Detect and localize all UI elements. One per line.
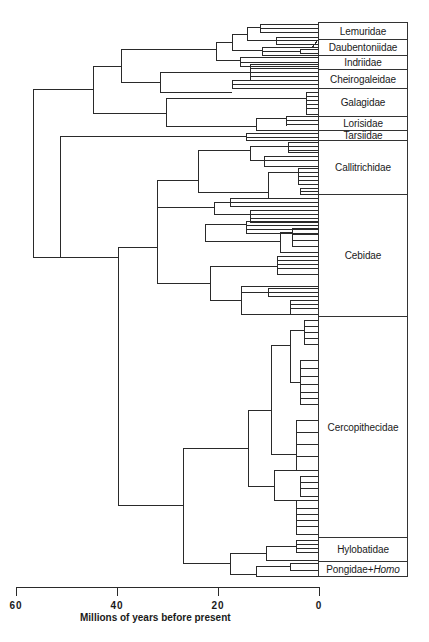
family-label-hylobatidae: Hylobatidae (318, 537, 408, 561)
family-label-lorisidae: Lorisidae (318, 116, 408, 130)
axis-tick-40: 40 (110, 600, 123, 611)
haplorhine-node (60, 136, 246, 257)
axis-title: Millions of years before present (80, 612, 231, 623)
lorisiform-node (166, 98, 306, 126)
axis-tick-60: 60 (9, 600, 22, 611)
time-axis-ticks (16, 587, 319, 596)
hominoid-node (230, 553, 266, 574)
strepsirrhine-node (93, 66, 166, 113)
platyrrhine-node (157, 180, 205, 283)
family-label-pongidae-homo: Pongidae+Homo (318, 561, 408, 577)
root-node (33, 89, 93, 257)
family-label-cercopithecidae: Cercopithecidae (318, 316, 408, 537)
catarrhine-node (183, 448, 248, 563)
axis-tick-20: 20 (211, 600, 224, 611)
family-label-daubentoniidae: Daubentoniidae (318, 39, 408, 55)
lemuriform-node (121, 49, 216, 82)
family-label-lemuridae: Lemuridae (318, 22, 408, 39)
axis-tick-0: 0 (316, 600, 323, 611)
family-label-cheirogaleidae: Cheirogaleidae (318, 69, 408, 88)
family-label-callitrichidae: Callitrichidae (318, 140, 408, 194)
family-label-cebidae: Cebidae (318, 194, 408, 316)
family-label-galagidae: Galagidae (318, 88, 408, 116)
family-label-indriidae: Indriidae (318, 55, 408, 69)
family-label-tarsiidae: Tarsiidae (318, 130, 408, 140)
cercopithecid-node (248, 410, 274, 486)
anthropoid-node (118, 247, 183, 505)
